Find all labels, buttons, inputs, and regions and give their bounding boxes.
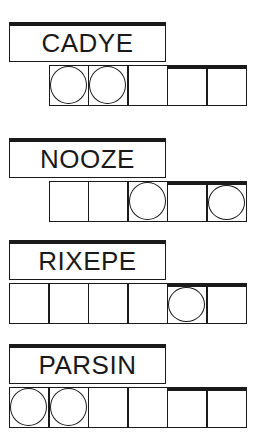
answer-cell-4[interactable] [128,283,168,324]
circle-icon [50,388,87,426]
answer-cell-6[interactable] [207,387,247,428]
scrambled-word-box: RIXEPE [9,240,166,280]
scrambled-word: NOOZE [40,144,135,175]
answer-cell-4[interactable] [167,181,207,222]
answer-cell-1[interactable] [9,283,49,324]
scrambled-word: RIXEPE [38,246,136,277]
scrambled-word-box: NOOZE [9,138,166,178]
circle-icon [168,287,205,322]
scrambled-word-box: PARSIN [9,344,166,384]
circle-icon [129,182,166,220]
answer-cell-1[interactable] [49,181,89,222]
answer-cell-3[interactable] [88,387,128,428]
scrambled-word: PARSIN [39,350,137,381]
puzzle-4: PARSIN [0,0,263,100]
answer-cell-5[interactable] [207,181,247,222]
answer-cell-6[interactable] [207,283,247,324]
answer-cell-3[interactable] [128,181,168,222]
circle-icon [10,388,47,426]
answer-cell-2[interactable] [49,283,89,324]
answer-cell-3[interactable] [88,283,128,324]
circle-icon [208,185,245,220]
answer-cell-5[interactable] [167,387,207,428]
answer-cell-1[interactable] [9,387,49,428]
answer-cell-5[interactable] [167,283,207,324]
answer-cell-2[interactable] [88,181,128,222]
answer-cell-4[interactable] [128,387,168,428]
answer-cell-2[interactable] [49,387,89,428]
